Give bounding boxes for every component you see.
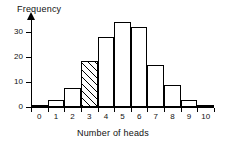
histogram-bar xyxy=(197,105,214,108)
histogram-bar xyxy=(131,27,148,107)
histogram-bar xyxy=(81,61,98,107)
histogram-bar xyxy=(98,37,115,107)
histogram-bar xyxy=(114,22,131,107)
x-axis-tick-label: 2 xyxy=(66,112,80,121)
histogram-bar xyxy=(181,100,198,108)
histogram-bar xyxy=(31,105,48,108)
histogram-bar xyxy=(48,100,65,108)
x-axis-tick-label: 10 xyxy=(199,112,213,121)
histogram-bar xyxy=(64,88,81,107)
x-axis-tick-label: 3 xyxy=(82,112,96,121)
x-axis-tick-label: 9 xyxy=(182,112,196,121)
y-axis-tick-label: 20 xyxy=(14,52,23,61)
x-axis-tick xyxy=(214,108,215,112)
y-axis-tick-label: 10 xyxy=(14,77,23,86)
x-axis-tick-label: 0 xyxy=(32,112,46,121)
histogram-bar xyxy=(164,85,181,108)
x-axis-tick-label: 7 xyxy=(149,112,163,121)
histogram-bar xyxy=(147,65,164,108)
x-axis-line xyxy=(31,107,214,108)
x-axis-tick-label: 5 xyxy=(116,112,130,121)
y-axis-tick-label: 0 xyxy=(19,102,23,111)
y-axis-tick-label: 30 xyxy=(14,27,23,36)
x-axis-tick-label: 6 xyxy=(132,112,146,121)
bar-series xyxy=(31,17,214,107)
x-axis-tick-label: 4 xyxy=(99,112,113,121)
x-axis-title: Number of heads xyxy=(0,128,226,138)
y-axis-title: Frequency xyxy=(17,4,61,14)
histogram-figure: Frequency 0102030 012345678910 Number of… xyxy=(0,0,226,147)
x-axis-tick-label: 1 xyxy=(49,112,63,121)
x-axis-tick-label: 8 xyxy=(165,112,179,121)
